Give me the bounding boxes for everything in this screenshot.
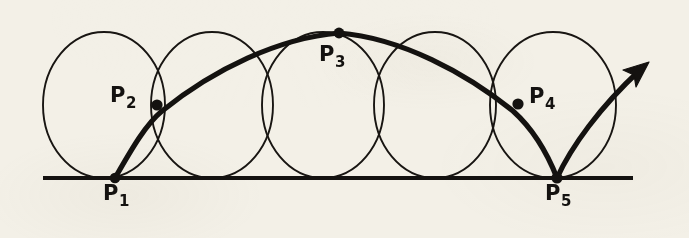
point-label-p1-base: P bbox=[103, 181, 119, 205]
point-label-p3-subscript: 3 bbox=[335, 53, 345, 71]
point-p2 bbox=[151, 99, 162, 110]
point-label-p2-base: P bbox=[110, 83, 126, 107]
point-label-p5-base: P bbox=[545, 181, 561, 205]
rebound-arc bbox=[557, 70, 640, 178]
point-label-p2-subscript: 2 bbox=[126, 94, 136, 112]
point-p3 bbox=[334, 28, 345, 39]
figure-canvas: P1 P2 P3 P4 P5 bbox=[0, 0, 689, 238]
point-label-p4-subscript: 4 bbox=[545, 95, 555, 113]
point-label-p4: P4 bbox=[529, 86, 555, 107]
point-label-p1: P1 bbox=[103, 183, 129, 204]
point-label-p5: P5 bbox=[545, 183, 571, 204]
circle-1 bbox=[43, 32, 165, 178]
point-label-p1-subscript: 1 bbox=[119, 192, 129, 210]
point-label-p3: P3 bbox=[319, 44, 345, 65]
point-label-p2: P2 bbox=[110, 85, 136, 106]
point-label-p5-subscript: 5 bbox=[561, 192, 571, 210]
circle-4 bbox=[374, 32, 496, 178]
point-label-p4-base: P bbox=[529, 84, 545, 108]
point-label-p3-base: P bbox=[319, 42, 335, 66]
point-p4 bbox=[512, 98, 523, 109]
